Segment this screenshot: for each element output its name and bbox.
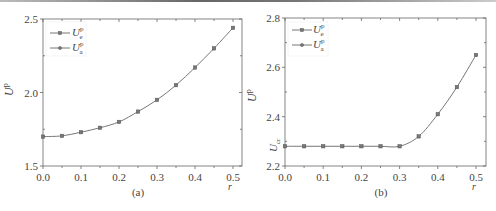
svg-text:2.0: 2.0	[24, 87, 38, 99]
data-point-marker	[474, 53, 477, 56]
data-point-marker	[283, 145, 286, 148]
y-axis-label-b: Up	[244, 89, 259, 102]
data-point-marker	[360, 145, 363, 148]
data-point-marker	[41, 135, 44, 138]
data-point-marker	[231, 26, 234, 29]
svg-text:0.1: 0.1	[74, 171, 88, 183]
data-point-marker	[212, 47, 215, 50]
legend-b: Upe Upa	[288, 22, 328, 56]
data-point-marker	[98, 126, 101, 129]
legend-marker-square-icon	[59, 32, 62, 35]
data-point-marker	[436, 113, 439, 116]
data-point-marker	[193, 66, 196, 69]
y-axis-label-a: Up	[1, 83, 16, 96]
legend-marker-circle-icon	[300, 43, 303, 46]
svg-text:0.1: 0.1	[316, 171, 330, 183]
data-point-marker	[60, 134, 63, 137]
x-axis-label-b: r	[472, 181, 476, 192]
data-point-marker	[322, 145, 325, 148]
data-point-marker	[136, 110, 139, 113]
legend-a: Upe Upa	[46, 22, 86, 56]
svg-text:2.5: 2.5	[24, 13, 38, 25]
legend-marker-circle-icon	[58, 46, 61, 49]
data-point-marker	[155, 98, 158, 101]
data-point-marker	[398, 145, 401, 148]
markers-b	[283, 53, 477, 148]
data-point-marker	[341, 145, 344, 148]
svg-text:0.3: 0.3	[393, 171, 407, 183]
svg-text:2.2: 2.2	[266, 160, 280, 172]
ucr-annotation: Ucr	[267, 138, 282, 152]
data-point-marker	[455, 85, 458, 88]
data-point-marker	[302, 145, 305, 148]
legend-marker-square-icon	[301, 29, 304, 32]
svg-text:2.6: 2.6	[266, 61, 280, 73]
panel-label-a: (a)	[132, 186, 145, 199]
data-point-marker	[79, 130, 82, 133]
panel-a: 0.00.10.20.30.40.51.52.02.5 Upe Upa Up r…	[1, 13, 242, 199]
svg-text:0.0: 0.0	[36, 171, 50, 183]
svg-text:0.3: 0.3	[150, 171, 164, 183]
data-point-marker	[174, 83, 177, 86]
svg-text:0.4: 0.4	[431, 171, 445, 183]
figure: 0.00.10.20.30.40.51.52.02.5 Upe Upa Up r…	[0, 0, 496, 211]
svg-text:0.2: 0.2	[355, 171, 369, 183]
svg-text:2.8: 2.8	[266, 12, 280, 24]
data-point-marker	[417, 135, 420, 138]
data-point-marker	[117, 120, 120, 123]
data-line-b	[285, 55, 476, 147]
svg-text:2.4: 2.4	[266, 111, 280, 123]
panel-label-b: (b)	[375, 186, 388, 199]
svg-text:0.4: 0.4	[188, 171, 202, 183]
x-axis-label-a: r	[228, 181, 232, 192]
data-point-marker	[379, 145, 382, 148]
svg-text:0.2: 0.2	[112, 171, 126, 183]
svg-text:0.0: 0.0	[278, 171, 292, 183]
svg-text:1.5: 1.5	[24, 160, 38, 172]
panel-b: 0.00.10.20.30.40.52.22.42.62.8 Upe Upa U…	[244, 12, 486, 199]
